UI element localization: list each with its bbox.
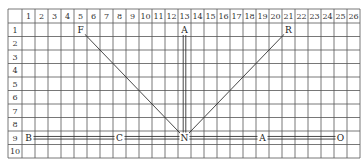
row-header: 3 [12, 53, 17, 62]
point-label-c: C [116, 133, 123, 143]
row-header: 1 [12, 26, 17, 35]
column-header: 1 [26, 12, 31, 21]
connection-line [188, 33, 285, 134]
row-header: 5 [12, 80, 17, 89]
point-label-r: R [285, 25, 292, 35]
point-label-a_bottom: A [258, 133, 266, 143]
row-header: 9 [12, 134, 17, 143]
row-header: 6 [12, 93, 17, 102]
column-header: 7 [104, 12, 109, 21]
column-header: 24 [322, 12, 332, 21]
row-header: 8 [12, 120, 17, 129]
column-header: 26 [348, 12, 358, 21]
point-label-a_top: A [180, 25, 188, 35]
column-header: 23 [309, 12, 319, 21]
connections [34, 33, 336, 139]
row-header: 7 [12, 107, 17, 116]
column-header: 15 [205, 12, 215, 21]
column-header: 8 [117, 12, 122, 21]
column-header: 4 [65, 12, 70, 21]
point-label-b: B [25, 133, 32, 143]
point-labels: FARBCNAO [24, 25, 345, 143]
grid-diagram: 1234567891011121314151617181920212223242… [0, 0, 362, 162]
column-headers: 1234567891011121314151617181920212223242… [26, 12, 359, 21]
point-label-f: F [77, 25, 83, 35]
column-header: 3 [52, 12, 57, 21]
column-header: 20 [270, 12, 280, 21]
column-header: 11 [153, 12, 163, 21]
column-header: 13 [179, 12, 189, 21]
row-header: 10 [10, 147, 20, 156]
column-header: 19 [257, 12, 267, 21]
row-headers: 12345678910 [10, 26, 20, 157]
column-header: 10 [140, 12, 150, 21]
column-header: 22 [296, 12, 306, 21]
column-header: 21 [283, 12, 293, 21]
column-header: 14 [192, 12, 202, 21]
column-header: 5 [78, 12, 83, 21]
column-header: 16 [218, 12, 228, 21]
column-header: 6 [91, 12, 96, 21]
row-header: 2 [12, 39, 17, 48]
point-label-n: N [181, 133, 189, 143]
point-label-o: O [337, 133, 344, 143]
column-header: 18 [244, 12, 254, 21]
column-header: 2 [39, 12, 44, 21]
row-header: 4 [12, 66, 17, 75]
column-header: 25 [335, 12, 345, 21]
column-header: 12 [166, 12, 176, 21]
column-header: 17 [231, 12, 241, 21]
connection-line [84, 33, 181, 134]
column-header: 9 [130, 12, 135, 21]
